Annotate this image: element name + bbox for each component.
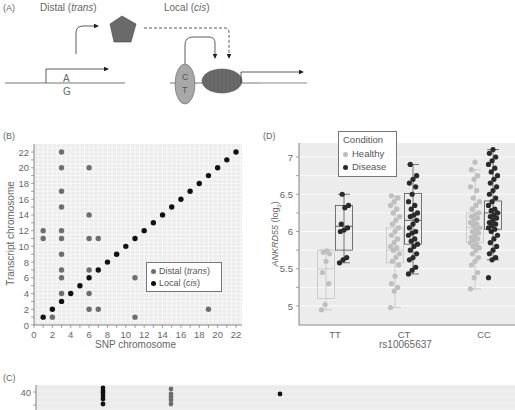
snp-oval bbox=[175, 64, 195, 104]
snp-bottom: T bbox=[182, 85, 188, 95]
svg-text:12: 12 bbox=[139, 329, 150, 340]
pentagon-icon bbox=[110, 16, 136, 42]
distal-dot-icon bbox=[151, 269, 156, 274]
svg-text:14: 14 bbox=[157, 329, 168, 340]
legend-local-label: Local bbox=[159, 278, 181, 288]
svg-text:8: 8 bbox=[105, 329, 110, 340]
legend-title: Condition bbox=[343, 134, 383, 145]
svg-text:4: 4 bbox=[24, 288, 29, 299]
legend-item-healthy: Healthy bbox=[343, 148, 384, 159]
svg-text:12: 12 bbox=[18, 225, 29, 236]
svg-text:16: 16 bbox=[18, 194, 29, 205]
panel-b-scatter-plot: 02468101214161820220246810121416182022 bbox=[0, 140, 250, 340]
allele-top: A bbox=[63, 73, 70, 84]
svg-text:22: 22 bbox=[18, 147, 29, 158]
legend-distal-label: Distal bbox=[159, 266, 182, 276]
local-dot-icon bbox=[151, 281, 156, 286]
panel-d-legend: Condition Healthy Disease bbox=[338, 131, 397, 177]
legend-local-italic: cis bbox=[186, 278, 197, 288]
svg-text:6: 6 bbox=[86, 329, 91, 340]
legend-healthy-label: Healthy bbox=[352, 148, 384, 159]
panel-b-xlabel: SNP chromosome bbox=[95, 339, 176, 350]
svg-text:CT: CT bbox=[398, 329, 411, 340]
snp-top: C bbox=[182, 72, 189, 82]
panel-a-diagram-ext bbox=[260, 0, 320, 100]
svg-text:7: 7 bbox=[288, 152, 293, 163]
svg-text:6: 6 bbox=[288, 226, 293, 237]
svg-text:6: 6 bbox=[24, 272, 29, 283]
panel-c-scatter-plot: 40 bbox=[0, 380, 515, 410]
svg-text:18: 18 bbox=[18, 178, 29, 189]
svg-text:4: 4 bbox=[68, 329, 73, 340]
legend-disease-label: Disease bbox=[352, 161, 386, 172]
svg-text:10: 10 bbox=[121, 329, 132, 340]
svg-text:18: 18 bbox=[194, 329, 205, 340]
svg-text:CC: CC bbox=[477, 329, 491, 340]
svg-text:20: 20 bbox=[18, 162, 29, 173]
legend-item-disease: Disease bbox=[343, 161, 386, 172]
svg-text:8: 8 bbox=[24, 257, 29, 268]
legend-distal-italic: trans bbox=[187, 266, 207, 276]
legend-item-distal: Distal (trans) bbox=[151, 266, 210, 276]
healthy-dot-icon bbox=[343, 152, 348, 157]
panel-a-diagram bbox=[0, 0, 260, 120]
svg-text:0: 0 bbox=[31, 329, 36, 340]
svg-text:5: 5 bbox=[288, 301, 293, 312]
svg-text:10: 10 bbox=[18, 241, 29, 252]
svg-text:16: 16 bbox=[176, 329, 187, 340]
svg-text:14: 14 bbox=[18, 209, 29, 220]
svg-text:20: 20 bbox=[212, 329, 223, 340]
svg-text:5.5: 5.5 bbox=[280, 263, 293, 274]
svg-text:6.5: 6.5 bbox=[280, 189, 293, 200]
panel-b-legend: Distal (trans) Local (cis) bbox=[146, 262, 222, 292]
svg-text:40: 40 bbox=[20, 387, 31, 398]
svg-text:22: 22 bbox=[231, 329, 242, 340]
svg-text:2: 2 bbox=[50, 329, 55, 340]
panel-d-xlabel: rs10065637 bbox=[379, 339, 432, 350]
svg-text:0: 0 bbox=[24, 320, 29, 331]
svg-text:TT: TT bbox=[329, 329, 341, 340]
svg-text:2: 2 bbox=[24, 304, 29, 315]
allele-bottom: G bbox=[63, 86, 71, 97]
legend-item-local: Local (cis) bbox=[151, 278, 200, 288]
disease-dot-icon bbox=[343, 165, 348, 170]
